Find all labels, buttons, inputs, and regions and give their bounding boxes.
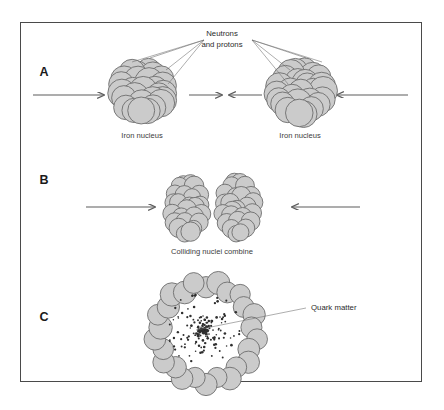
quark-dot: [195, 341, 197, 343]
quark-dot: [210, 339, 212, 341]
quark-dot: [224, 321, 226, 323]
quark-dot: [200, 347, 202, 349]
caption-0: Iron nucleus: [121, 131, 163, 140]
quark-dot: [197, 330, 200, 333]
quark-dot: [199, 332, 201, 334]
quark-dot: [199, 322, 201, 324]
quark-dot: [200, 320, 202, 322]
leader-line-left-0: [132, 40, 204, 62]
quark-dot: [202, 339, 205, 342]
quark-dot: [224, 332, 227, 335]
quark-dot: [216, 297, 218, 299]
quark-dot: [184, 343, 186, 345]
caption-1: Iron nucleus: [279, 131, 321, 140]
caption-0: Colliding nuclei combine: [171, 247, 253, 256]
quark-dot: [199, 351, 202, 354]
quark-dot: [174, 348, 176, 350]
nucleon: [232, 224, 249, 241]
quark-dot: [211, 320, 214, 323]
quark-dot: [203, 319, 205, 321]
nucleon: [286, 99, 314, 127]
quark-dot: [216, 334, 218, 336]
callout-neutrons-protons-line2: and protons: [201, 40, 242, 49]
quark-dot: [225, 300, 227, 302]
quark-dot: [173, 345, 175, 347]
quark-dot: [223, 337, 225, 339]
quark-dot: [200, 316, 202, 318]
quark-dot: [203, 346, 206, 349]
nucleon: [183, 273, 204, 294]
quark-dot: [173, 319, 175, 321]
quark-dot: [218, 328, 220, 330]
quark-dot: [212, 329, 214, 331]
quark-dot: [216, 300, 219, 303]
quark-dot: [193, 306, 196, 309]
quark-dot: [214, 343, 217, 346]
quark-dot: [206, 329, 208, 331]
quark-dot: [181, 346, 183, 348]
quark-dot: [206, 322, 208, 324]
quark-dot: [177, 331, 179, 333]
quark-dot: [214, 302, 216, 304]
quark-dot: [193, 321, 195, 323]
quark-dot: [184, 346, 186, 348]
colliding-nucleus-right: [214, 173, 263, 242]
quark-dot: [205, 336, 207, 338]
quark-dot: [190, 360, 192, 362]
quark-dot: [189, 315, 192, 318]
panel-a: AIron nucleusIron nucleusNeutronsand pro…: [33, 29, 408, 140]
quark-dot: [197, 333, 199, 335]
quark-dot: [173, 337, 175, 339]
quark-dot: [233, 335, 235, 337]
quark-dot: [230, 337, 232, 339]
leader-line-right-2: [252, 40, 290, 70]
quark-dot: [235, 311, 237, 313]
quark-dot: [203, 324, 205, 326]
quark-dot: [230, 344, 233, 347]
quark-dot: [198, 345, 200, 347]
quark-dot: [202, 326, 204, 328]
quark-dot: [198, 337, 200, 339]
quark-dot: [220, 330, 222, 332]
quark-dot: [202, 329, 204, 331]
quark-dot: [208, 325, 210, 327]
quark-dot: [187, 308, 189, 310]
quark-dot: [189, 355, 191, 357]
quark-dot: [203, 349, 205, 351]
quark-dot: [238, 333, 240, 335]
quark-dot: [219, 316, 221, 318]
quark-dot: [180, 338, 182, 340]
quark-dot: [222, 357, 224, 359]
quark-dot: [208, 320, 211, 323]
quark-dot: [195, 343, 197, 345]
quark-dot: [206, 316, 208, 318]
nucleon: [128, 97, 155, 124]
quark-dot: [192, 319, 194, 321]
quark-dot: [174, 307, 176, 309]
quark-dot: [178, 317, 180, 319]
quark-dot: [188, 335, 190, 337]
quark-dot: [226, 345, 228, 347]
quark-dot: [211, 355, 213, 357]
quark-dot: [181, 312, 184, 315]
quark-dot: [208, 333, 210, 335]
quark-dot: [180, 299, 182, 301]
quark-dot: [200, 326, 202, 328]
quark-dot: [178, 355, 180, 357]
quark-dot: [214, 347, 216, 349]
quark-dot: [192, 294, 194, 296]
quark-dot: [186, 316, 188, 318]
panel-letter-c: C: [39, 310, 48, 324]
quark-dot: [221, 322, 223, 324]
quark-dot: [206, 337, 209, 340]
quark-dot: [238, 330, 240, 332]
panel-letter-a: A: [39, 65, 48, 79]
leader-line-left-2: [166, 40, 204, 70]
quark-dot: [190, 324, 192, 326]
figure-canvas: AIron nucleusIron nucleusNeutronsand pro…: [0, 0, 444, 410]
quark-dot: [223, 313, 225, 315]
quark-dot: [204, 342, 206, 344]
quark-dot: [195, 350, 197, 352]
quark-dot: [183, 334, 185, 336]
quark-dot: [187, 339, 189, 341]
